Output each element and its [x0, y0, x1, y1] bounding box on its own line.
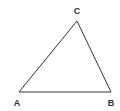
vertex-label-c: C: [74, 6, 81, 16]
vertex-label-b: B: [108, 98, 115, 108]
edge-ca: [19, 21, 77, 92]
triangle-edges: [19, 21, 111, 92]
triangle-diagram: A B C: [0, 0, 120, 111]
edge-bc: [77, 21, 111, 92]
vertex-label-a: A: [14, 98, 21, 108]
